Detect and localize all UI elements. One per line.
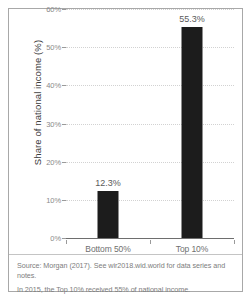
bar-bottom-50[interactable]: [98, 191, 119, 238]
y-tick-mark: [62, 124, 66, 125]
bar-group: 55.3%: [150, 9, 234, 238]
bar-series: 12.3% 55.3%: [66, 9, 234, 238]
y-tick-label: 30%: [35, 119, 61, 128]
caption-note: In 2015, the Top 10% received 55% of nat…: [17, 285, 234, 295]
y-tick-label: 60%: [35, 5, 61, 14]
x-tick-mark: [66, 240, 67, 244]
x-tick-label-top-10: Top 10%: [150, 244, 234, 254]
chart-plot-area: Share of national income (%) 0%10%20%30%…: [9, 9, 242, 249]
y-tick-mark: [62, 9, 66, 10]
bar-top-10[interactable]: [182, 27, 203, 238]
y-tick-label: 0%: [35, 234, 61, 243]
y-tick-label: 20%: [35, 157, 61, 166]
x-tick-label-bottom-50: Bottom 50%: [66, 244, 150, 254]
y-tick-label: 10%: [35, 195, 61, 204]
axis-baseline: [66, 238, 234, 239]
bar-group: 12.3%: [66, 9, 150, 238]
y-tick-mark: [62, 162, 66, 163]
y-axis-tick-labels: 0%10%20%30%40%50%60%: [35, 9, 61, 249]
x-tick-mark: [150, 240, 151, 244]
x-tick-mark: [234, 240, 235, 244]
y-tick-mark: [62, 85, 66, 86]
y-tick-label: 40%: [35, 81, 61, 90]
y-tick-label: 50%: [35, 43, 61, 52]
y-tick-mark: [62, 238, 66, 239]
bar-value-label: 55.3%: [165, 14, 219, 24]
y-tick-mark: [62, 47, 66, 48]
figure-container: Share of national income (%) 0%10%20%30%…: [8, 8, 243, 292]
y-tick-mark: [62, 200, 66, 201]
caption-source: Source: Morgan (2017). See wir2018.wid.w…: [17, 261, 234, 280]
bar-value-label: 12.3%: [81, 178, 135, 188]
caption-block: Source: Morgan (2017). See wir2018.wid.w…: [9, 254, 242, 292]
